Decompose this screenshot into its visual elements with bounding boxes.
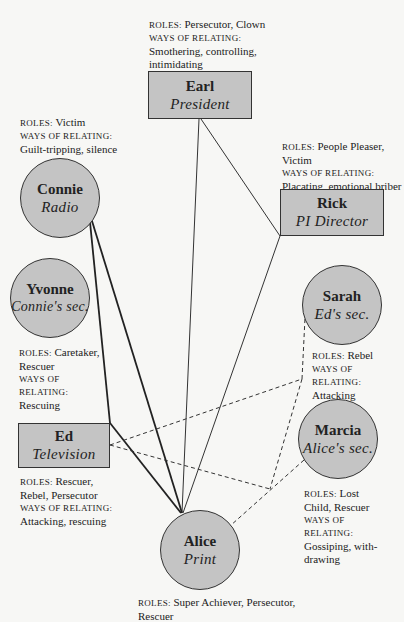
edge-marcia-alice bbox=[230, 460, 304, 526]
edge-sarah-junction bbox=[302, 318, 305, 379]
node-yvonne[interactable]: Yvonne Connie's sec. bbox=[10, 258, 90, 338]
edge-earl-rick bbox=[201, 119, 280, 236]
earl-info: ROLES: Persecutor, Clown WAYS OF RELATIN… bbox=[149, 18, 289, 71]
node-ed[interactable]: Ed Television bbox=[18, 423, 110, 468]
rick-info: ROLES: People Pleaser, Victim WAYS OF RE… bbox=[282, 140, 404, 193]
edge-rick-alice bbox=[183, 236, 280, 513]
yvonne-info: ROLES: Caretaker, Rescuer WAYS OF RELATI… bbox=[19, 346, 109, 412]
node-alice[interactable]: Alice Print bbox=[160, 510, 240, 590]
node-marcia[interactable]: Marcia Alice's sec. bbox=[298, 399, 378, 479]
edge-sarah-marcia bbox=[270, 379, 302, 489]
connie-info: ROLES: Victim WAYS OF RELATING: Guilt-tr… bbox=[20, 116, 150, 156]
node-earl[interactable]: Earl President bbox=[148, 71, 252, 119]
alice-info: ROLES: Super Achiever, Persecutor, Rescu… bbox=[138, 596, 318, 622]
edge-ed-alice bbox=[110, 423, 181, 513]
marcia-info: ROLES: Lost Child, Rescuer WAYS OF RELAT… bbox=[304, 487, 384, 566]
edge-ed-sarah bbox=[110, 379, 302, 445]
sarah-info: ROLES: Rebel WAYS OF RELATING: Attacking bbox=[312, 349, 404, 402]
roles-label: ROLES: bbox=[149, 20, 182, 30]
node-sarah[interactable]: Sarah Ed's sec. bbox=[302, 265, 382, 345]
ways-label: WAYS OF RELATING: bbox=[149, 32, 289, 45]
edge-earl-alice bbox=[182, 119, 199, 513]
node-rick[interactable]: Rick PI Director bbox=[280, 189, 384, 236]
node-connie[interactable]: Connie Radio bbox=[20, 158, 100, 238]
edge-ed-marcia bbox=[110, 445, 270, 489]
ed-info: ROLES: Rescuer, Rebel, Persecutor WAYS O… bbox=[20, 475, 120, 528]
